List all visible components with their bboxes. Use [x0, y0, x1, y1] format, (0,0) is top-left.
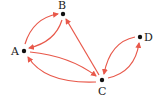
- node-label-d: D: [144, 31, 153, 44]
- graph-diagram: A B C D: [0, 0, 162, 102]
- edge-d-to-c: [104, 37, 135, 74]
- node-a: [22, 49, 26, 53]
- node-label-b: B: [58, 0, 66, 12]
- edge-b-to-a: [29, 20, 62, 48]
- node-c: [100, 78, 104, 82]
- edge-a-to-b: [25, 14, 58, 44]
- node-label-a: A: [10, 45, 20, 58]
- edge-c-to-d: [108, 43, 139, 78]
- node-d: [138, 35, 142, 39]
- edge-a-to-c: [30, 52, 96, 76]
- node-label-c: C: [98, 85, 106, 98]
- node-b: [61, 12, 65, 16]
